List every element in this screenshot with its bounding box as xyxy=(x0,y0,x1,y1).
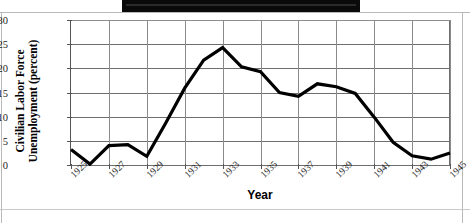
y-axis-tick-label: 20 xyxy=(0,63,8,74)
redaction-bar xyxy=(122,0,360,12)
y-axis-title-line2: Unemployment (percent) xyxy=(27,16,40,186)
series-layer xyxy=(71,20,450,165)
unemployment-line-chart: Civilian Labor Force Unemployment (perce… xyxy=(0,12,462,209)
x-axis-title: Year xyxy=(70,188,450,202)
page-border-right xyxy=(462,12,463,223)
y-axis-tick-label: 5 xyxy=(0,135,8,146)
plot-inner xyxy=(71,20,450,165)
plot-area xyxy=(70,20,450,166)
page-border-bottom xyxy=(0,209,470,210)
y-axis-tick-label: 0 xyxy=(0,160,8,171)
y-axis-tick-label: 15 xyxy=(0,87,8,98)
redaction-bar-highlight xyxy=(126,4,356,6)
y-axis-tick-label: 10 xyxy=(0,111,8,122)
x-gridline xyxy=(450,20,451,165)
y-axis-tick-label: 25 xyxy=(0,39,8,50)
unemployment-series-line xyxy=(71,48,450,164)
y-axis-title: Civilian Labor Force Unemployment (perce… xyxy=(14,16,40,186)
y-axis-tick-label: 30 xyxy=(0,15,8,26)
page-canvas: Civilian Labor Force Unemployment (perce… xyxy=(0,0,470,223)
y-axis-title-line1: Civilian Labor Force xyxy=(14,16,27,186)
